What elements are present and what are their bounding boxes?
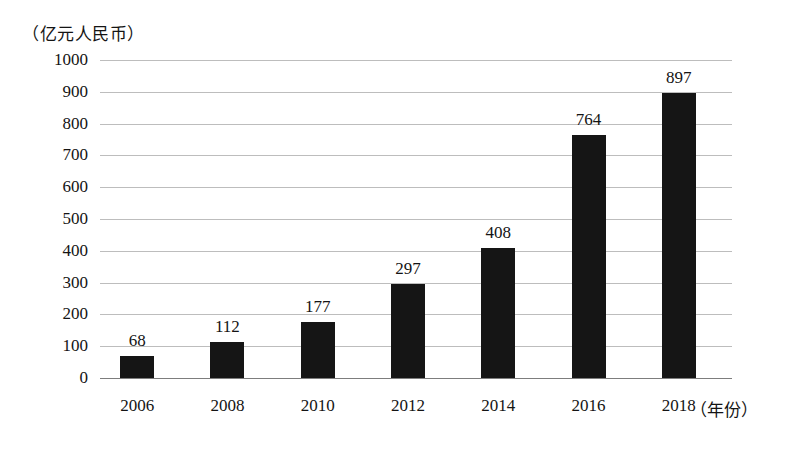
bar: 764 [572, 135, 606, 378]
x-axis-baseline: 0 [100, 378, 732, 379]
x-tick-label: 2014 [481, 396, 515, 416]
gridline: 400 [100, 251, 732, 252]
bar-value-label: 764 [576, 110, 602, 130]
bar-value-label: 297 [395, 259, 421, 279]
y-tick-label: 700 [63, 145, 89, 165]
x-axis-unit-label: （年份） [690, 396, 758, 421]
bar: 408 [481, 248, 515, 378]
bar-chart: （亿元人民币） 01002003004005006007008009001000… [0, 0, 798, 451]
bar: 897 [662, 93, 696, 378]
gridline: 700 [100, 155, 732, 156]
x-tick-label: 2010 [301, 396, 335, 416]
bar: 112 [210, 342, 244, 378]
gridline: 900 [100, 92, 732, 93]
gridline: 800 [100, 124, 732, 125]
bar-value-label: 112 [215, 317, 240, 337]
bar-value-label: 68 [129, 331, 146, 351]
bar: 297 [391, 284, 425, 378]
y-tick-label: 500 [63, 209, 89, 229]
bar: 177 [301, 322, 335, 378]
y-tick-label: 400 [63, 241, 89, 261]
gridline: 500 [100, 219, 732, 220]
x-tick-label: 2016 [572, 396, 606, 416]
y-tick-label: 1000 [54, 50, 88, 70]
y-tick-label: 300 [63, 273, 89, 293]
bar-value-label: 177 [305, 297, 331, 317]
bar-value-label: 408 [486, 223, 512, 243]
x-tick-label: 2008 [210, 396, 244, 416]
y-tick-label: 600 [63, 177, 89, 197]
plot-area: 01002003004005006007008009001000 6811217… [100, 60, 732, 378]
x-tick-label: 2006 [120, 396, 154, 416]
y-tick-label: 900 [63, 82, 89, 102]
gridline: 1000 [100, 60, 732, 61]
y-axis-unit-label: （亿元人民币） [22, 20, 145, 45]
y-tick-label: 100 [63, 336, 89, 356]
y-tick-label: 200 [63, 304, 89, 324]
y-tick-label: 0 [80, 368, 89, 388]
y-tick-label: 800 [63, 114, 89, 134]
bar-value-label: 897 [666, 68, 692, 88]
x-tick-label: 2012 [391, 396, 425, 416]
gridline: 600 [100, 187, 732, 188]
bar: 68 [120, 356, 154, 378]
